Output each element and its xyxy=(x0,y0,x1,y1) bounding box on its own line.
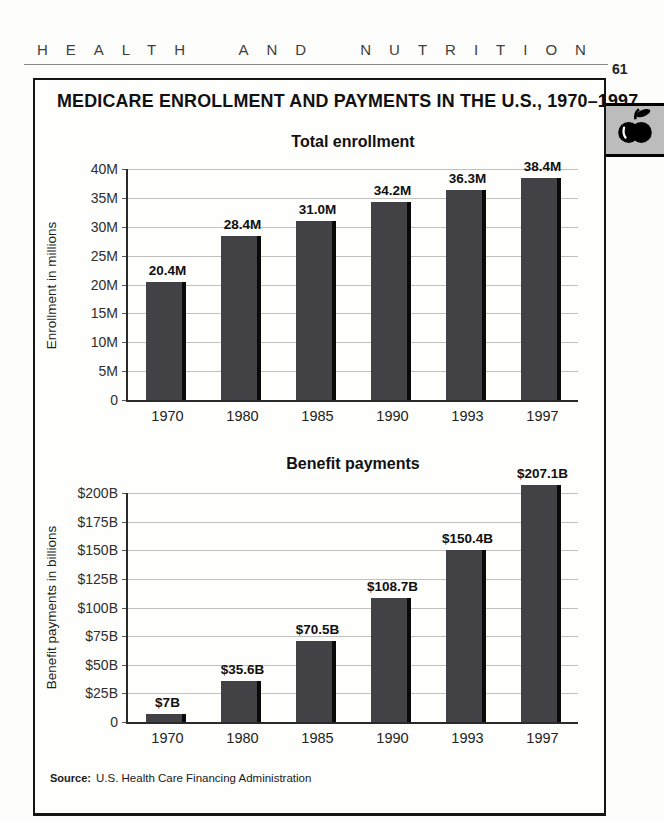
gridline xyxy=(128,285,578,286)
chart-title: Total enrollment xyxy=(128,133,578,151)
y-tick-label: 35M xyxy=(40,190,118,206)
bar-value-label: $207.1B xyxy=(495,466,591,481)
y-tick-label: $175B xyxy=(40,514,118,530)
source-text: U.S. Health Care Financing Administratio… xyxy=(96,772,311,784)
y-tick-label: $150B xyxy=(40,542,118,558)
bar-value-label: $150.4B xyxy=(420,531,516,546)
x-tick-label: 1980 xyxy=(208,730,278,746)
bar xyxy=(371,202,411,400)
bar xyxy=(221,681,261,722)
bar-value-label: $108.7B xyxy=(345,579,441,594)
y-tick-label: $200B xyxy=(40,485,118,501)
source-label: Source: xyxy=(50,772,91,784)
x-tick-label: 1993 xyxy=(433,730,503,746)
y-axis-line xyxy=(126,493,128,722)
y-tick-label: 15M xyxy=(40,305,118,321)
x-tick-label: 1997 xyxy=(508,408,578,424)
y-tick-label: 0 xyxy=(40,392,118,408)
gridline xyxy=(128,342,578,343)
bar xyxy=(521,178,561,400)
x-tick-label: 1985 xyxy=(283,730,353,746)
gridline xyxy=(128,550,578,551)
gridline xyxy=(128,371,578,372)
gridline xyxy=(128,256,578,257)
page-number: 61 xyxy=(612,61,628,77)
x-tick-label: 1980 xyxy=(208,408,278,424)
header-rule xyxy=(24,64,608,65)
y-axis-line xyxy=(126,169,128,400)
gridline xyxy=(128,313,578,314)
bar xyxy=(446,550,486,722)
y-tick-label: 10M xyxy=(40,334,118,350)
bar-value-label: $7B xyxy=(120,695,216,710)
y-tick-label: 0 xyxy=(40,714,118,730)
gridline xyxy=(128,608,578,609)
page-title: MEDICARE ENROLLMENT AND PAYMENTS IN THE … xyxy=(57,90,638,112)
bar-value-label: 28.4M xyxy=(195,217,291,232)
gridline xyxy=(128,522,578,523)
y-tick-label: 25M xyxy=(40,248,118,264)
x-tick-label: 1970 xyxy=(133,730,203,746)
apple-icon xyxy=(614,105,656,155)
source-line: Source:U.S. Health Care Financing Admini… xyxy=(50,772,311,784)
x-axis-line xyxy=(126,722,578,724)
gridline xyxy=(128,493,578,494)
x-tick-label: 1993 xyxy=(433,408,503,424)
bar xyxy=(446,190,486,400)
x-tick-label: 1985 xyxy=(283,408,353,424)
bar-value-label: 31.0M xyxy=(270,202,366,217)
bar xyxy=(521,485,561,722)
x-tick-label: 1990 xyxy=(358,408,428,424)
bar xyxy=(221,236,261,400)
x-tick-label: 1990 xyxy=(358,730,428,746)
y-tick-label: 20M xyxy=(40,277,118,293)
bar xyxy=(371,598,411,722)
page: HEALTH AND NUTRITION 61 MEDICARE ENROLLM… xyxy=(0,0,664,821)
x-axis-line xyxy=(126,400,578,402)
x-tick-label: 1997 xyxy=(508,730,578,746)
bar xyxy=(296,641,336,722)
bar-value-label: $35.6B xyxy=(195,662,291,677)
bar-value-label: 20.4M xyxy=(120,263,216,278)
y-tick-label: $75B xyxy=(40,628,118,644)
bar xyxy=(146,282,186,400)
bar-value-label: $70.5B xyxy=(270,622,366,637)
y-tick-label: 5M xyxy=(40,363,118,379)
section-header: HEALTH AND NUTRITION xyxy=(37,41,604,58)
y-tick-label: 30M xyxy=(40,219,118,235)
bar xyxy=(146,714,186,722)
y-tick-label: $25B xyxy=(40,685,118,701)
y-tick-label: $50B xyxy=(40,657,118,673)
bar xyxy=(296,221,336,400)
bar-value-label: 38.4M xyxy=(495,159,591,174)
y-tick-label: 40M xyxy=(40,161,118,177)
y-tick-label: $125B xyxy=(40,571,118,587)
y-tick-label: $100B xyxy=(40,600,118,616)
x-tick-label: 1970 xyxy=(133,408,203,424)
chapter-tab xyxy=(606,103,664,157)
